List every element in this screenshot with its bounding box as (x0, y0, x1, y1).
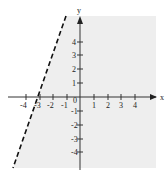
shaded-region (13, 16, 156, 168)
x-tick: -4 (20, 101, 27, 110)
y-tick: 4 (72, 38, 76, 47)
origin-label: 0 (73, 96, 77, 105)
y-label: y (77, 6, 81, 15)
y-tick: -2 (71, 121, 78, 130)
graph: x y -4 -3 -2 -1 1 2 3 4 4 3 2 1 -1 -2 -3… (0, 0, 166, 181)
x-tick: 2 (106, 101, 110, 110)
y-tick: 1 (72, 79, 76, 88)
y-tick: -1 (71, 107, 78, 116)
y-tick: -3 (71, 135, 78, 144)
x-tick: 1 (92, 101, 96, 110)
y-tick: -4 (71, 148, 78, 157)
x-tick: -2 (47, 101, 54, 110)
x-tick: -3 (34, 101, 41, 110)
x-tick: -1 (61, 101, 68, 110)
x-tick: 4 (133, 101, 137, 110)
x-tick: 3 (119, 101, 123, 110)
y-tick: 3 (72, 51, 76, 60)
x-label: x (160, 93, 164, 102)
y-tick: 2 (72, 65, 76, 74)
